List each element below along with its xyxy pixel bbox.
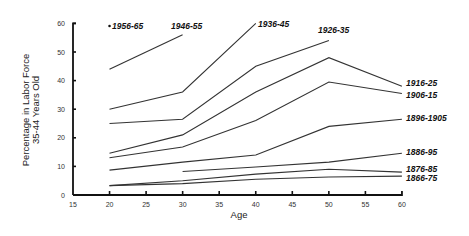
- x-tick-label: 50: [325, 201, 333, 208]
- x-tick-label: 45: [288, 201, 296, 208]
- x-tick-label: 60: [398, 201, 406, 208]
- y-axis-title-line2: 35-44 Years Old: [30, 76, 41, 144]
- x-tick-label: 30: [179, 201, 187, 208]
- series-1876-85: 1876-85: [110, 164, 438, 186]
- series-label: 1896-1905: [406, 113, 447, 123]
- y-axis: 0102030405060: [57, 20, 76, 199]
- series-label: 1886-95: [406, 147, 437, 157]
- series-line: [183, 153, 402, 171]
- series-1926-35: 1926-35: [110, 25, 350, 124]
- series-label: 1956-65: [112, 21, 143, 31]
- y-tick-label: 20: [57, 134, 65, 141]
- series-label: 1946-55: [171, 21, 202, 31]
- x-tick-label: 20: [106, 201, 114, 208]
- series-1956-65: 1956-65: [108, 21, 143, 31]
- series-label: 1866-75: [406, 173, 437, 183]
- series-1896-1905: 1896-1905: [110, 113, 447, 170]
- series-label: 1906-15: [406, 90, 437, 100]
- series-line: [110, 176, 402, 186]
- series-1916-25: 1916-25: [110, 58, 438, 154]
- series-line: [110, 35, 183, 69]
- series-group: 1956-651946-551936-451926-351916-251906-…: [108, 19, 447, 186]
- x-axis-line: [73, 191, 402, 195]
- y-tick-label: 0: [61, 192, 65, 199]
- series-1866-75: 1866-75: [110, 173, 438, 186]
- series-label: 1926-35: [318, 25, 349, 35]
- y-tick-label: 10: [57, 163, 65, 170]
- series-line: [110, 23, 256, 109]
- x-axis: 15202530354045505560: [69, 191, 406, 208]
- series-1906-15: 1906-15: [110, 82, 438, 158]
- y-tick-label: 60: [57, 20, 65, 27]
- y-tick-label: 40: [57, 77, 65, 84]
- series-label: 1916-25: [406, 78, 437, 88]
- y-tick-label: 30: [57, 106, 65, 113]
- labor-force-chart: 0102030405060 15202530354045505560 1956-…: [0, 0, 469, 236]
- series-line: [110, 119, 402, 170]
- y-tick-label: 50: [57, 49, 65, 56]
- series-dot-marker: [108, 25, 111, 28]
- series-1886-95: 1886-95: [183, 147, 438, 172]
- x-tick-label: 55: [362, 201, 370, 208]
- x-tick-label: 15: [69, 201, 77, 208]
- x-axis-title: Age: [231, 209, 248, 220]
- series-line: [110, 82, 402, 158]
- series-line: [110, 58, 402, 154]
- x-tick-label: 25: [142, 201, 150, 208]
- y-axis-title: Percentage in Labor Force 35-44 Years Ol…: [20, 54, 41, 166]
- series-label: 1936-45: [258, 19, 289, 29]
- x-tick-label: 40: [252, 201, 260, 208]
- series-line: [110, 169, 402, 185]
- series-line: [110, 41, 329, 124]
- x-tick-label: 35: [215, 201, 223, 208]
